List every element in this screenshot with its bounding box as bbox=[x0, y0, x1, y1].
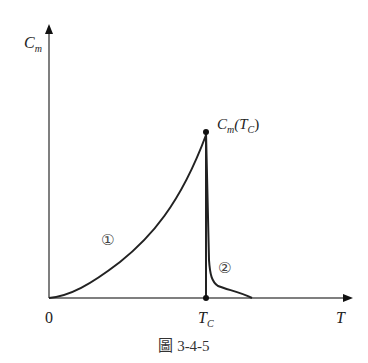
peak-label: Cm(TC) bbox=[217, 116, 259, 135]
diagram-canvas bbox=[0, 0, 368, 363]
x-axis-arrow-icon bbox=[343, 294, 353, 302]
x-axis-label: T bbox=[336, 309, 345, 327]
y-axis-arrow-icon bbox=[45, 24, 53, 34]
y-axis-label: Cm bbox=[24, 34, 42, 54]
origin-label: 0 bbox=[45, 309, 53, 327]
curve-1-label: ① bbox=[101, 231, 114, 249]
tc-label: TC bbox=[198, 309, 214, 329]
tc-point bbox=[203, 295, 209, 301]
curve-1 bbox=[49, 135, 206, 298]
curve-2-label: ② bbox=[218, 259, 231, 277]
peak-point bbox=[203, 129, 209, 135]
figure-caption: 圖 3-4-5 bbox=[0, 334, 368, 355]
